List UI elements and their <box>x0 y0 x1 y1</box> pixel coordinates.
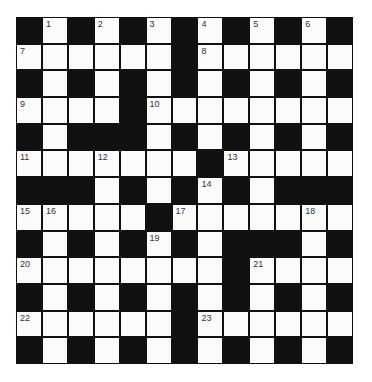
answer-cell[interactable] <box>250 71 274 96</box>
answer-cell[interactable] <box>95 312 119 337</box>
answer-cell[interactable] <box>302 312 326 337</box>
answer-cell[interactable] <box>69 258 93 283</box>
answer-cell[interactable]: 18 <box>302 205 326 230</box>
answer-cell[interactable]: 5 <box>250 18 274 43</box>
answer-cell[interactable] <box>250 45 274 70</box>
answer-cell[interactable]: 17 <box>173 205 197 230</box>
answer-cell[interactable]: 6 <box>302 18 326 43</box>
answer-cell[interactable] <box>95 205 119 230</box>
answer-cell[interactable] <box>328 98 352 123</box>
answer-cell[interactable]: 4 <box>198 18 222 43</box>
answer-cell[interactable] <box>224 205 248 230</box>
answer-cell[interactable] <box>276 205 300 230</box>
answer-cell[interactable] <box>276 258 300 283</box>
answer-cell[interactable] <box>43 45 67 70</box>
answer-cell[interactable] <box>302 151 326 176</box>
answer-cell[interactable] <box>95 338 119 363</box>
answer-cell[interactable] <box>198 232 222 257</box>
answer-cell[interactable] <box>250 125 274 150</box>
answer-cell[interactable] <box>198 98 222 123</box>
answer-cell[interactable] <box>121 45 145 70</box>
answer-cell[interactable] <box>302 71 326 96</box>
answer-cell[interactable] <box>224 45 248 70</box>
answer-cell[interactable] <box>302 232 326 257</box>
answer-cell[interactable] <box>250 205 274 230</box>
answer-cell[interactable]: 14 <box>198 178 222 203</box>
answer-cell[interactable] <box>302 258 326 283</box>
answer-cell[interactable] <box>276 312 300 337</box>
answer-cell[interactable] <box>328 258 352 283</box>
answer-cell[interactable] <box>173 258 197 283</box>
answer-cell[interactable] <box>43 232 67 257</box>
answer-cell[interactable] <box>302 338 326 363</box>
answer-cell[interactable] <box>328 205 352 230</box>
answer-cell[interactable] <box>250 312 274 337</box>
answer-cell[interactable] <box>147 338 171 363</box>
answer-cell[interactable] <box>276 98 300 123</box>
answer-cell[interactable] <box>95 71 119 96</box>
answer-cell[interactable] <box>173 151 197 176</box>
answer-cell[interactable] <box>276 45 300 70</box>
answer-cell[interactable] <box>198 205 222 230</box>
answer-cell[interactable] <box>198 258 222 283</box>
answer-cell[interactable]: 1 <box>43 18 67 43</box>
answer-cell[interactable]: 10 <box>147 98 171 123</box>
answer-cell[interactable] <box>302 125 326 150</box>
answer-cell[interactable] <box>250 178 274 203</box>
answer-cell[interactable] <box>302 98 326 123</box>
answer-cell[interactable] <box>328 45 352 70</box>
answer-cell[interactable] <box>147 151 171 176</box>
answer-cell[interactable] <box>147 312 171 337</box>
answer-cell[interactable] <box>69 312 93 337</box>
answer-cell[interactable] <box>43 338 67 363</box>
answer-cell[interactable] <box>250 338 274 363</box>
answer-cell[interactable] <box>121 258 145 283</box>
answer-cell[interactable] <box>95 98 119 123</box>
answer-cell[interactable] <box>173 98 197 123</box>
answer-cell[interactable] <box>121 151 145 176</box>
answer-cell[interactable] <box>147 125 171 150</box>
answer-cell[interactable] <box>43 71 67 96</box>
answer-cell[interactable] <box>43 285 67 310</box>
answer-cell[interactable] <box>198 285 222 310</box>
answer-cell[interactable] <box>147 45 171 70</box>
answer-cell[interactable] <box>69 45 93 70</box>
answer-cell[interactable] <box>147 285 171 310</box>
answer-cell[interactable]: 2 <box>95 18 119 43</box>
answer-cell[interactable]: 13 <box>224 151 248 176</box>
answer-cell[interactable]: 3 <box>147 18 171 43</box>
answer-cell[interactable] <box>95 178 119 203</box>
answer-cell[interactable] <box>43 312 67 337</box>
answer-cell[interactable]: 20 <box>17 258 41 283</box>
answer-cell[interactable]: 22 <box>17 312 41 337</box>
answer-cell[interactable] <box>328 151 352 176</box>
answer-cell[interactable]: 11 <box>17 151 41 176</box>
answer-cell[interactable]: 21 <box>250 258 274 283</box>
answer-cell[interactable] <box>250 151 274 176</box>
answer-cell[interactable] <box>276 151 300 176</box>
answer-cell[interactable] <box>250 98 274 123</box>
answer-cell[interactable] <box>328 312 352 337</box>
answer-cell[interactable] <box>224 98 248 123</box>
answer-cell[interactable] <box>147 178 171 203</box>
answer-cell[interactable] <box>198 125 222 150</box>
answer-cell[interactable] <box>224 312 248 337</box>
answer-cell[interactable]: 7 <box>17 45 41 70</box>
answer-cell[interactable] <box>69 205 93 230</box>
answer-cell[interactable] <box>121 312 145 337</box>
answer-cell[interactable]: 12 <box>95 151 119 176</box>
answer-cell[interactable] <box>43 125 67 150</box>
answer-cell[interactable] <box>69 151 93 176</box>
answer-cell[interactable] <box>250 285 274 310</box>
answer-cell[interactable] <box>147 258 171 283</box>
answer-cell[interactable] <box>95 45 119 70</box>
answer-cell[interactable] <box>302 45 326 70</box>
answer-cell[interactable] <box>121 205 145 230</box>
answer-cell[interactable] <box>43 258 67 283</box>
answer-cell[interactable] <box>43 98 67 123</box>
answer-cell[interactable] <box>43 151 67 176</box>
answer-cell[interactable] <box>69 98 93 123</box>
answer-cell[interactable]: 23 <box>198 312 222 337</box>
answer-cell[interactable] <box>95 285 119 310</box>
answer-cell[interactable]: 15 <box>17 205 41 230</box>
